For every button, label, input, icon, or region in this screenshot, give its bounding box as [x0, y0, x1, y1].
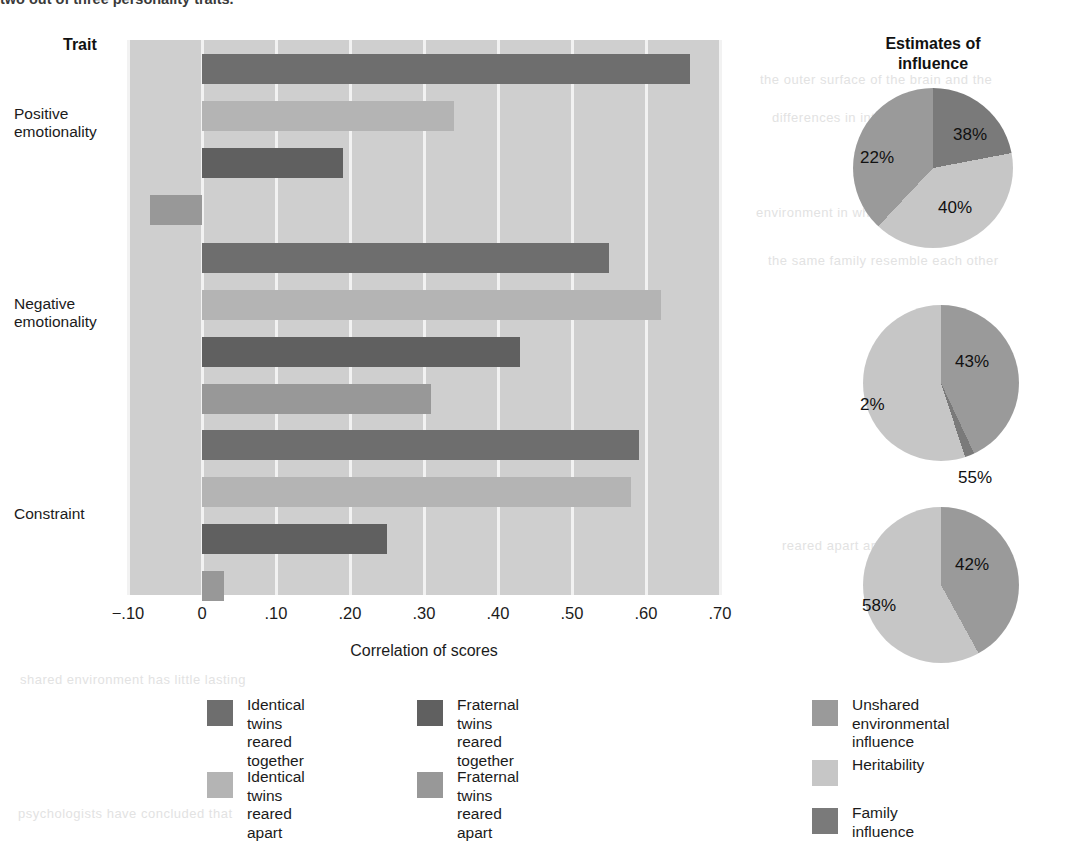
bar: [202, 384, 431, 414]
bar: [202, 243, 609, 273]
bar: [202, 524, 387, 554]
bar: [202, 430, 639, 460]
x-axis-title: Correlation of scores: [128, 642, 720, 660]
legend-label: Identical twins reared apart: [247, 768, 305, 842]
bar: [202, 571, 224, 601]
pie-slice-label: 38%: [953, 125, 987, 145]
clipped-caption: two out of three personality traits.: [0, 0, 420, 11]
trait-label-constraint: Constraint: [14, 505, 124, 523]
legend-swatch: [207, 772, 233, 798]
x-axis-tick-label: .20: [320, 604, 380, 623]
x-axis-tick-label: .60: [616, 604, 676, 623]
ghost-text: the outer surface of the brain and the: [760, 72, 992, 87]
trait-label-negative: Negative emotionality: [14, 295, 124, 331]
pie-chart: [863, 507, 1019, 663]
bar: [202, 148, 343, 178]
legend-label: Unshared environmental influence: [852, 696, 949, 752]
x-axis-tick-label: .50: [542, 604, 602, 623]
legend-swatch: [812, 700, 838, 726]
legend-swatch: [207, 700, 233, 726]
x-axis-tick-label: .30: [394, 604, 454, 623]
gridline: [719, 40, 722, 595]
x-axis-tick-label: .40: [468, 604, 528, 623]
legend-swatch: [812, 760, 838, 786]
trait-column-header: Trait: [63, 36, 97, 54]
legend-swatch: [417, 772, 443, 798]
legend-label: Heritability: [852, 756, 924, 775]
ghost-text: psychologists have concluded that: [18, 806, 233, 821]
pie-chart: [863, 305, 1019, 461]
x-axis-tick-label: −.10: [98, 604, 158, 623]
pie-slice-label: 2%: [860, 395, 885, 415]
figure-root: two out of three personality traits. the…: [0, 0, 1082, 852]
bar: [202, 290, 661, 320]
bar: [202, 477, 631, 507]
pie-slice-label: 43%: [955, 352, 989, 372]
legend-label: Family influence: [852, 804, 914, 841]
bar: [202, 54, 690, 84]
pie-slice-label: 40%: [938, 198, 972, 218]
bar: [202, 101, 454, 131]
legend-swatch: [417, 700, 443, 726]
trait-label-positive: Positive emotionality: [14, 105, 124, 141]
legend-label: Identical twins reared together: [247, 696, 305, 770]
pie-slice-label: 42%: [955, 555, 989, 575]
pie-slice-label: 55%: [958, 468, 992, 488]
gridline: [127, 40, 130, 595]
ghost-text: the same family resemble each other: [768, 253, 999, 268]
x-axis-tick-label: 0: [172, 604, 232, 623]
ghost-text: shared environment has little lasting: [20, 672, 246, 687]
x-axis-tick-label: .70: [690, 604, 750, 623]
pie-slice-label: 58%: [862, 596, 896, 616]
pies-header: Estimates ofinfluence: [838, 34, 1028, 74]
legend-label: Fraternal twins reared together: [457, 696, 519, 770]
bar: [202, 337, 520, 367]
legend-label: Fraternal twins reared apart: [457, 768, 519, 842]
bar-plot-area: [128, 40, 720, 595]
bar: [150, 195, 202, 225]
pie-chart: [853, 88, 1013, 248]
x-axis-tick-label: .10: [246, 604, 306, 623]
pie-slice-label: 22%: [860, 148, 894, 168]
legend-swatch: [812, 808, 838, 834]
